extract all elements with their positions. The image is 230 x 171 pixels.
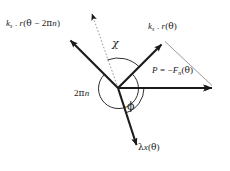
vector-diagram-figure: ks . r(θ − 2πn) ks . r(θ) P = −Fn(θ) 2πn… bbox=[0, 0, 230, 171]
label-phi-angle: ϕ bbox=[127, 101, 135, 112]
ks-r-theta-minus-2pin-vector bbox=[71, 41, 119, 89]
label-ks-r-theta: ks . r(θ) bbox=[148, 22, 177, 31]
p-force-vector bbox=[118, 84, 212, 92]
label-ks-r-theta-minus-2pin: ks . r(θ − 2πn) bbox=[6, 19, 60, 28]
chi-arc bbox=[108, 58, 140, 67]
label-p-equals-minus-fn-theta: P = −Fn(θ) bbox=[152, 66, 193, 75]
reference-dotted-vector bbox=[92, 14, 118, 88]
lambda-x-theta-vector bbox=[118, 88, 137, 145]
label-two-pi-n: 2πn bbox=[74, 89, 89, 98]
label-chi-angle: χ bbox=[112, 38, 119, 49]
label-lambda-x-theta: λx(θ) bbox=[138, 143, 160, 152]
triangle-closing-segment bbox=[165, 42, 212, 86]
